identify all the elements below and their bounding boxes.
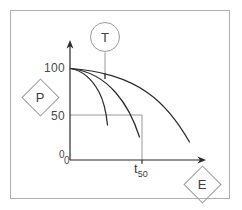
decay-curve-3 bbox=[71, 69, 190, 143]
temperature-node: T bbox=[90, 22, 120, 52]
y-tick-label-100: 100 bbox=[44, 62, 65, 74]
decay-curve-1 bbox=[71, 69, 108, 126]
t50-subscript: 50 bbox=[138, 169, 148, 179]
temperature-node-label: T bbox=[101, 31, 109, 44]
exposure-node: E bbox=[183, 165, 221, 203]
x-tick-label-zero: 0 bbox=[64, 156, 70, 166]
property-node: P bbox=[21, 78, 59, 116]
exposure-node-label: E bbox=[198, 178, 207, 191]
x-tick-label-t50: t50 bbox=[134, 162, 148, 179]
figure-canvas: 100 50 0 0 t50 P E T bbox=[0, 0, 242, 210]
property-node-label: P bbox=[36, 91, 45, 104]
